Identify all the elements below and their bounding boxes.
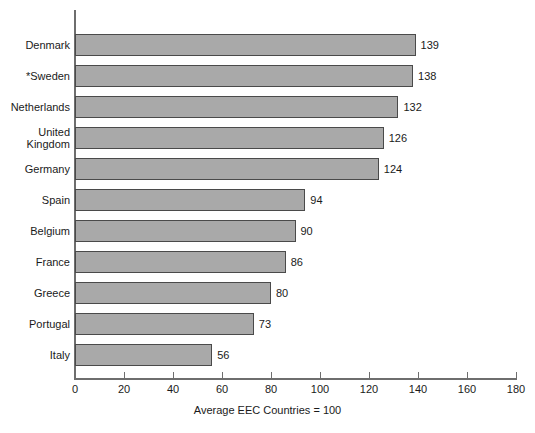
x-axis-tick <box>467 372 468 379</box>
category-label: Netherlands <box>0 96 70 118</box>
category-label: Spain <box>0 189 70 211</box>
bar-row: Italy56 <box>0 340 535 371</box>
x-axis-tick <box>173 372 174 379</box>
x-axis-tick <box>271 372 272 379</box>
category-label: UnitedKingdom <box>0 127 70 149</box>
category-label: *Sweden <box>0 65 70 87</box>
bar <box>75 96 398 118</box>
bar-row: Denmark139 <box>0 30 535 61</box>
x-axis-tick <box>124 372 125 379</box>
bar-value-label: 132 <box>403 96 421 118</box>
bar-row: UnitedKingdom126 <box>0 123 535 154</box>
bar <box>75 251 286 273</box>
x-axis-tick <box>75 372 76 379</box>
bar-value-label: 124 <box>384 158 402 180</box>
category-label: Portugal <box>0 313 70 335</box>
bar-row: Portugal73 <box>0 309 535 340</box>
bar <box>75 127 384 149</box>
x-axis-tick <box>222 372 223 379</box>
bar-value-label: 138 <box>418 65 436 87</box>
x-axis-tick-label: 120 <box>360 383 378 395</box>
bar <box>75 34 416 56</box>
bar-row: Spain94 <box>0 185 535 216</box>
category-label: Belgium <box>0 220 70 242</box>
bar <box>75 65 413 87</box>
bar <box>75 220 296 242</box>
bar <box>75 344 212 366</box>
bar-row: Belgium90 <box>0 216 535 247</box>
bar-value-label: 86 <box>291 251 303 273</box>
category-label: Greece <box>0 282 70 304</box>
bar-value-label: 94 <box>310 189 322 211</box>
x-axis-tick-label: 20 <box>118 383 130 395</box>
x-axis-tick <box>418 372 419 379</box>
bar <box>75 158 379 180</box>
category-label: Italy <box>0 344 70 366</box>
x-axis-tick <box>369 372 370 379</box>
bar-value-label: 80 <box>276 282 288 304</box>
category-label: France <box>0 251 70 273</box>
category-label: Germany <box>0 158 70 180</box>
bar-row: Greece80 <box>0 278 535 309</box>
x-axis-tick-label: 160 <box>458 383 476 395</box>
x-axis-tick-label: 100 <box>311 383 329 395</box>
bar <box>75 282 271 304</box>
x-axis-tick-label: 80 <box>265 383 277 395</box>
bar-row: *Sweden138 <box>0 61 535 92</box>
bar-row: France86 <box>0 247 535 278</box>
x-axis-tick-label: 60 <box>216 383 228 395</box>
bar-value-label: 126 <box>389 127 407 149</box>
bar <box>75 189 305 211</box>
category-label: Denmark <box>0 34 70 56</box>
bar-value-label: 90 <box>301 220 313 242</box>
bar-row: Netherlands132 <box>0 92 535 123</box>
bar-chart: Denmark139*Sweden138Netherlands132United… <box>0 0 535 433</box>
bar-row: Germany124 <box>0 154 535 185</box>
x-axis-tick-label: 0 <box>72 383 78 395</box>
x-axis-tick-label: 180 <box>507 383 525 395</box>
bar <box>75 313 254 335</box>
x-axis-tick-label: 40 <box>167 383 179 395</box>
x-axis-tick <box>320 372 321 379</box>
x-axis-tick <box>516 372 517 379</box>
bar-value-label: 139 <box>421 34 439 56</box>
x-axis-tick-label: 140 <box>409 383 427 395</box>
chart-caption: Average EEC Countries = 100 <box>0 404 535 416</box>
bar-value-label: 56 <box>217 344 229 366</box>
bars-layer: Denmark139*Sweden138Netherlands132United… <box>0 0 535 433</box>
bar-value-label: 73 <box>259 313 271 335</box>
